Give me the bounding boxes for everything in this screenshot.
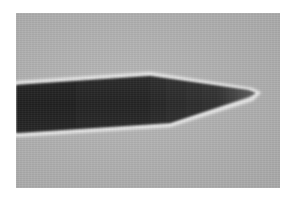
micrograph-frame bbox=[16, 13, 280, 188]
needle-graphic bbox=[16, 13, 280, 188]
